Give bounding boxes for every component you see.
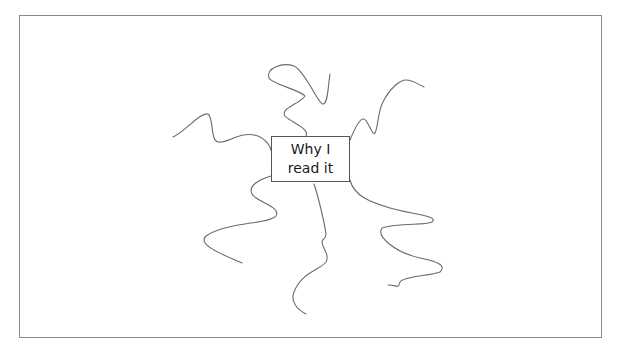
branch-lower-right xyxy=(350,180,442,286)
branch-top xyxy=(269,65,330,136)
branch-upper-right xyxy=(350,80,424,140)
branch-upper-left xyxy=(173,114,271,150)
branch-bottom xyxy=(293,184,327,314)
center-node: Why I read it xyxy=(271,136,350,182)
branch-lower-left xyxy=(204,176,277,263)
center-node-line1: Why I xyxy=(291,140,331,159)
center-node-line2: read it xyxy=(288,159,333,178)
